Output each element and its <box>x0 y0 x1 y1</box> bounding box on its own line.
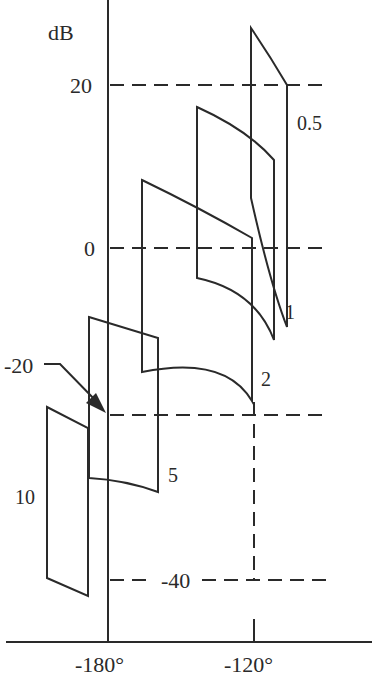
diagram-canvas: dB 20 0 -20 -40 -180° -120° 0.5 1 2 5 10 <box>0 0 372 682</box>
nichols-template-diagram: dB 20 0 -20 -40 -180° -120° 0.5 1 2 5 10 <box>0 0 372 682</box>
template-label-10: 10 <box>15 486 35 508</box>
template-label-5: 5 <box>168 464 178 486</box>
template-label-1: 1 <box>285 301 295 323</box>
y-tick-minus40: -40 <box>161 568 190 593</box>
x-tick-label-minus180: -180° <box>75 652 124 677</box>
y-unit-label: dB <box>48 20 74 45</box>
y-tick-0: 0 <box>84 236 95 261</box>
template-1 <box>197 107 274 340</box>
template-label-0.5: 0.5 <box>297 112 322 134</box>
x-tick-label-minus120: -120° <box>224 652 273 677</box>
y-tick-20: 20 <box>70 73 92 98</box>
template-0.5 <box>251 28 287 327</box>
y-tick-minus20: -20 <box>4 353 33 378</box>
template-label-2: 2 <box>261 368 271 390</box>
template-10 <box>47 407 88 596</box>
